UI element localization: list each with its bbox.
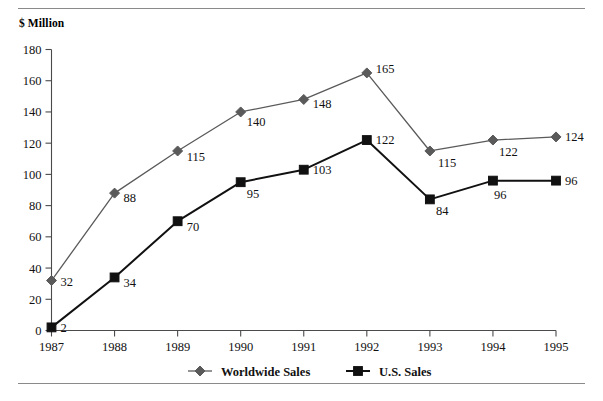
line-chart-svg: 0204060801001201401601801987198819891990… <box>0 0 603 401</box>
data-point-label: 96 <box>494 188 507 202</box>
y-tick-label: 20 <box>29 293 42 307</box>
data-point-marker <box>47 323 56 332</box>
data-point-marker <box>552 176 561 185</box>
y-tick-label: 80 <box>29 199 42 213</box>
legend-marker-square-icon <box>354 367 363 376</box>
data-point-marker <box>110 273 119 282</box>
data-point-marker <box>236 178 245 187</box>
y-tick-label: 140 <box>23 105 42 119</box>
data-point-marker <box>551 132 561 142</box>
x-tick-label: 1995 <box>544 340 569 354</box>
data-point-label: 165 <box>376 62 395 76</box>
legend-item-label: Worldwide Sales <box>221 365 310 379</box>
x-tick-label: 1989 <box>165 340 190 354</box>
y-tick-label: 60 <box>29 230 42 244</box>
x-tick-label: 1993 <box>417 340 442 354</box>
data-point-label: 140 <box>247 115 266 129</box>
data-point-marker <box>489 176 498 185</box>
y-tick-label: 120 <box>23 137 42 151</box>
data-point-label: 115 <box>438 156 456 170</box>
data-point-marker <box>299 94 309 104</box>
x-tick-label: 1990 <box>228 340 253 354</box>
data-point-label: 2 <box>61 321 67 335</box>
data-point-label: 122 <box>499 145 518 159</box>
data-point-marker <box>299 165 308 174</box>
data-labels: 3288115140148165115122124234709510312284… <box>61 62 585 335</box>
data-point-marker <box>488 135 498 145</box>
plot-area: 0204060801001201401601801987198819891990… <box>0 0 603 401</box>
legend-item-label: U.S. Sales <box>379 365 432 379</box>
chart-figure: $ Million 020406080100120140160180198719… <box>0 0 603 401</box>
y-tick-label: 160 <box>23 74 42 88</box>
data-point-marker <box>425 195 434 204</box>
data-point-label: 70 <box>187 220 200 234</box>
chart-legend: Worldwide SalesU.S. Sales <box>188 365 432 379</box>
data-point-label: 95 <box>247 187 260 201</box>
data-point-marker <box>47 276 57 286</box>
data-point-label: 124 <box>565 130 585 144</box>
data-point-label: 88 <box>124 191 137 205</box>
y-tick-label: 180 <box>23 43 42 57</box>
data-point-label: 122 <box>376 133 395 147</box>
data-point-label: 103 <box>313 163 332 177</box>
legend-marker-diamond-icon <box>195 366 205 376</box>
data-point-marker <box>236 107 246 117</box>
x-tick-label: 1987 <box>39 340 64 354</box>
x-tick-label: 1991 <box>291 340 316 354</box>
data-point-marker <box>173 217 182 226</box>
data-point-marker <box>362 136 371 145</box>
data-point-label: 96 <box>565 174 578 188</box>
data-point-label: 32 <box>61 275 74 289</box>
data-point-label: 115 <box>187 150 205 164</box>
data-point-marker <box>110 188 120 198</box>
y-tick-label: 0 <box>35 324 41 338</box>
x-tick-label: 1988 <box>102 340 127 354</box>
data-point-label: 34 <box>124 276 137 290</box>
x-tick-label: 1992 <box>354 340 379 354</box>
data-point-marker <box>173 146 183 156</box>
x-tick-label: 1994 <box>480 340 506 354</box>
y-tick-label: 40 <box>29 262 42 276</box>
data-point-label: 148 <box>313 97 332 111</box>
data-point-label: 84 <box>436 204 449 218</box>
axes: 0204060801001201401601801987198819891990… <box>23 43 569 354</box>
y-tick-label: 100 <box>23 168 42 182</box>
